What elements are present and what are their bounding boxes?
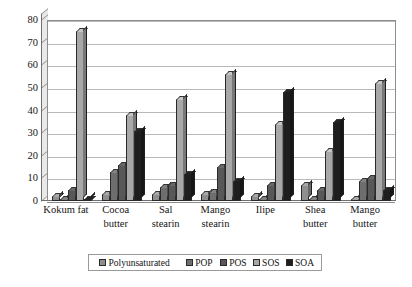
bar-group [246,20,296,201]
legend-swatch-icon [286,259,293,266]
bar-side-face [340,117,344,198]
y-tick-label-70: 70 [0,38,38,49]
x-axis-label: Mangostearin [191,203,241,230]
bar-chart: 01020304050607080 Kokum fatCocoabutterSa… [0,0,412,287]
bar [333,122,341,201]
bar [217,167,225,201]
bar-side-face [382,78,386,198]
bar [184,174,192,201]
bar [309,199,317,201]
x-axis-label: Ilipe [240,203,290,217]
bar [110,172,118,201]
y-tick-label-80: 80 [0,15,38,26]
legend-item-soa[interactable]: SOA [286,258,315,268]
bar [102,194,110,201]
legend-swatch-icon [99,259,106,266]
legend-label: POS [229,258,246,268]
bar [126,115,134,201]
bar [134,131,142,201]
y-tick-label-0: 0 [0,196,38,207]
bar [317,190,325,201]
legend-label: Polyunsaturated [109,258,170,268]
legend-item-sos[interactable]: SOS [253,258,280,268]
bar [251,196,259,201]
y-axis-line-outer [41,14,42,201]
bar [325,151,333,201]
bar-group [47,20,97,201]
bar [233,181,241,201]
bar-group [97,20,147,201]
y-tick-label-50: 50 [0,83,38,94]
bar-group [346,20,396,201]
bar-side-face [240,176,244,198]
x-axis-category-labels: Kokum fatCocoabutterSalstearinMangostear… [41,203,396,247]
bar-group [147,20,197,201]
bar-group [197,20,247,201]
x-axis-label: Sheabutter [290,203,340,230]
bar [259,199,267,201]
bar-side-face [290,87,294,198]
y-axis-tick-labels: 01020304050607080 [0,0,38,287]
bar [176,99,184,201]
bar [351,199,359,201]
y-tick-label-10: 10 [0,173,38,184]
bar-top-face [84,196,96,200]
legend-label: SOA [295,258,314,268]
bar [52,196,60,201]
bar [359,181,367,201]
x-axis-label: Kokum fat [41,203,91,217]
bar-side-face [83,26,87,198]
bar [201,194,209,201]
bar [283,92,291,201]
bar [60,199,68,201]
x-axis-label: Mangobutter [340,203,390,230]
legend-swatch-icon [220,259,227,266]
legend-label: SOS [262,258,279,268]
bar [76,31,84,201]
legend-label: POP [195,258,212,268]
bar [209,192,217,201]
bar [84,199,92,201]
legend-item-pop[interactable]: POP [186,258,213,268]
legend-swatch-icon [253,259,260,266]
x-axis-label: Salstearin [141,203,191,230]
bar [301,185,309,201]
y-tick-label-20: 20 [0,151,38,162]
bar [160,187,168,201]
bar-side-face [390,185,394,198]
bar [375,83,383,201]
legend-item-polyunsaturated[interactable]: Polyunsaturated [99,258,170,268]
bar [275,124,283,201]
legend-item-pos[interactable]: POS [220,258,247,268]
bar [168,185,176,201]
y-tick-label-40: 40 [0,106,38,117]
chart-legend: PolyunsaturatedPOPPOSSOSSOA [88,254,322,271]
bar-side-face [308,180,312,198]
bar [152,194,160,201]
bar [367,178,375,201]
bar-side-face [191,169,195,198]
bar-side-face [141,126,145,198]
bar-group [296,20,346,201]
bar [383,190,391,201]
bar [68,190,76,201]
bar [118,165,126,201]
bars-layer [47,20,396,201]
x-axis-label: Cocoabutter [91,203,141,230]
legend-swatch-icon [186,259,193,266]
y-tick-label-60: 60 [0,60,38,71]
y-tick-label-30: 30 [0,128,38,139]
bar [267,185,275,201]
